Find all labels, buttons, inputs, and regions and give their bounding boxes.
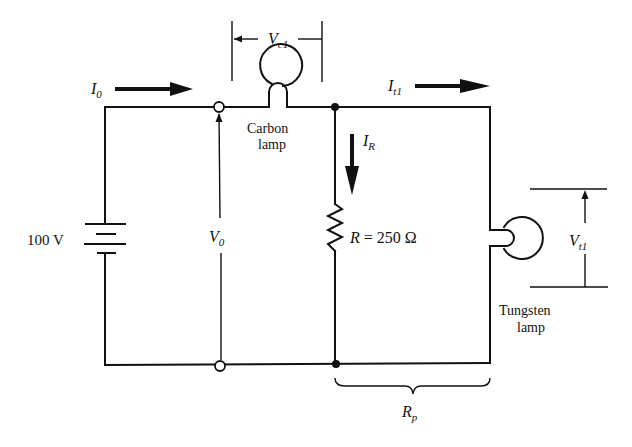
battery-voltage-label: 100 V <box>27 232 64 248</box>
tungsten-lamp-label-line1: Tungsten <box>499 303 551 318</box>
vc1-arrow-icon <box>234 36 242 43</box>
tungsten-lamp-label-line2: lamp <box>517 320 545 335</box>
v0-label: V0 <box>209 228 225 248</box>
tungsten-lamp-icon <box>490 217 543 259</box>
rp-brace-icon <box>335 378 490 394</box>
junction-bottom <box>332 360 340 368</box>
it1-arrow-icon <box>415 79 490 93</box>
circuit-diagram: 100 V Carbon lamp Vc1 V0 I0 It1 <box>0 0 632 447</box>
carbon-lamp-icon <box>260 44 302 107</box>
vt1-arrow-icon <box>582 190 589 199</box>
battery-icon <box>85 224 125 253</box>
junction-top <box>331 103 339 111</box>
terminal-bottom <box>215 361 225 371</box>
carbon-lamp-label-line1: Carbon <box>247 121 288 136</box>
circuit-wires <box>105 107 490 365</box>
i0-label: I0 <box>90 80 102 100</box>
rp-label: Rp <box>401 403 418 423</box>
resistor-label: R = 250 Ω <box>349 229 417 246</box>
carbon-lamp-label-line2: lamp <box>258 137 286 152</box>
vt1-label: Vt1 <box>569 232 587 252</box>
i0-arrow-icon <box>115 82 193 96</box>
resistor-icon <box>328 204 342 251</box>
ir-arrow-icon <box>345 134 359 195</box>
it1-label: It1 <box>387 77 402 97</box>
ir-label: IR <box>362 132 375 152</box>
v0-arrow-icon <box>216 113 223 122</box>
terminal-top <box>214 102 224 112</box>
